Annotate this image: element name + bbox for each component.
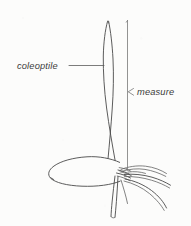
lateral-roots (121, 166, 171, 211)
coleoptile-blade (103, 21, 117, 172)
figure-container: coleoptile measure (0, 0, 191, 226)
measure-tick-icon (128, 89, 133, 96)
measure-label: measure (137, 87, 174, 97)
seedling-diagram: coleoptile measure (0, 0, 191, 226)
measure-bracket (126, 21, 127, 171)
seed-endosperm (49, 157, 121, 187)
coleoptile-label: coleoptile (17, 61, 58, 71)
